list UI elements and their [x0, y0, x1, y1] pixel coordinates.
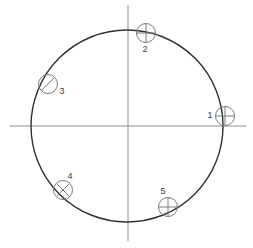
axes-group — [10, 5, 246, 241]
marker-5: 5 — [159, 186, 178, 216]
marker-label-3: 3 — [59, 86, 64, 96]
marker-label-5: 5 — [160, 186, 165, 196]
marker-3: 3 — [39, 75, 65, 97]
markers-group: 12345 — [39, 24, 235, 217]
marker-label-4: 4 — [67, 171, 72, 181]
marker-label-1: 1 — [207, 110, 212, 120]
marker-2: 2 — [137, 24, 156, 55]
diagram-canvas: 12345 — [0, 0, 253, 248]
circle-diagram: 12345 — [0, 0, 253, 248]
marker-label-2: 2 — [142, 44, 147, 54]
marker-4: 4 — [54, 171, 73, 199]
